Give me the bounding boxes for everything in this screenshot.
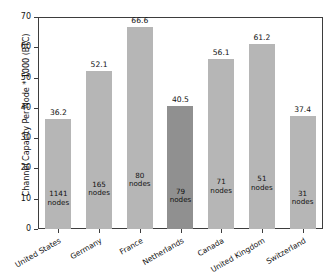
bar-value-label: 37.4 xyxy=(294,105,311,114)
bar-value-label: 40.5 xyxy=(172,95,189,104)
bar-value-label: 61.2 xyxy=(253,33,270,42)
bar-node-count-label: 1141nodes xyxy=(48,190,70,207)
bar xyxy=(127,27,153,229)
bar xyxy=(86,71,112,229)
bar-group: 37.431nodes xyxy=(282,17,323,229)
y-axis-tick-label: 30 xyxy=(21,133,31,142)
bars-container: 36.21141nodes52.1165nodes66.680nodes40.5… xyxy=(38,17,323,229)
bar-group: 66.680nodes xyxy=(119,17,160,229)
x-axis: United StatesGermanyFranceNetherlandsCan… xyxy=(38,229,323,279)
bar-node-count-label: 31nodes xyxy=(292,190,314,207)
bar-value-label: 56.1 xyxy=(213,48,230,57)
bar xyxy=(290,116,316,229)
bar-group: 56.171nodes xyxy=(201,17,242,229)
bar-value-label: 66.6 xyxy=(131,16,148,25)
bar xyxy=(45,119,71,229)
x-axis-tick-mark xyxy=(58,229,59,233)
bar-group: 36.21141nodes xyxy=(38,17,79,229)
bar-group: 61.251nodes xyxy=(242,17,283,229)
bar-node-count-label: 79nodes xyxy=(170,188,192,205)
x-axis-tick-mark xyxy=(262,229,263,233)
y-axis-tick-label: 50 xyxy=(21,73,31,82)
bar-value-label: 52.1 xyxy=(91,60,108,69)
bar-value-label: 36.2 xyxy=(50,108,67,117)
y-axis: 010203040506070 xyxy=(0,17,38,229)
bar xyxy=(167,106,193,229)
bar-group: 40.579nodes xyxy=(160,17,201,229)
bar-node-count-label: 165nodes xyxy=(88,181,110,198)
x-axis-tick-mark xyxy=(181,229,182,233)
y-axis-tick-label: 0 xyxy=(26,224,31,233)
bar-node-count-label: 71nodes xyxy=(210,178,232,195)
x-axis-tick-mark xyxy=(303,229,304,233)
x-axis-tick-mark xyxy=(140,229,141,233)
y-axis-tick-label: 60 xyxy=(21,42,31,51)
x-axis-tick-mark xyxy=(99,229,100,233)
x-axis-tick-mark xyxy=(221,229,222,233)
bar xyxy=(249,44,275,229)
bar-chart: Channel Capacity Per Node * 1000 (BTC) 0… xyxy=(0,0,332,279)
y-axis-tick-label: 70 xyxy=(21,12,31,21)
bar-group: 52.1165nodes xyxy=(79,17,120,229)
y-axis-tick-label: 20 xyxy=(21,163,31,172)
bar xyxy=(208,59,234,229)
bar-node-count-label: 80nodes xyxy=(129,172,151,189)
y-axis-tick-label: 40 xyxy=(21,103,31,112)
y-axis-tick-label: 10 xyxy=(21,194,31,203)
bar-node-count-label: 51nodes xyxy=(251,175,273,192)
